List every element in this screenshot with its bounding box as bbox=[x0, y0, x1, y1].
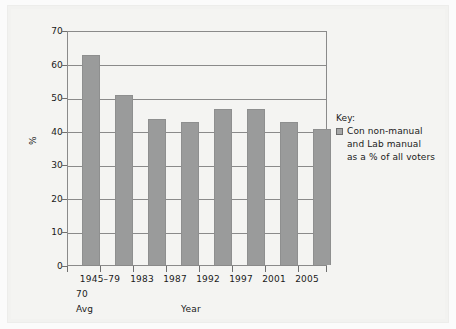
bar-1983 bbox=[148, 119, 166, 265]
plot-area bbox=[67, 31, 327, 266]
x-tick-label-2001: 2001 bbox=[256, 274, 292, 284]
chart-screenshot: % 70 60 50 40 30 20 10 0 bbox=[0, 0, 456, 329]
bar-1992 bbox=[214, 109, 232, 265]
x-tick-label-1992: 1992 bbox=[190, 274, 226, 284]
y-tick-label-10: 10 bbox=[41, 227, 63, 237]
x-tick-mark bbox=[265, 266, 266, 272]
x-axis-title: Year bbox=[181, 304, 201, 314]
x-tick-label-1997: 1997 bbox=[223, 274, 259, 284]
y-tick-label-20: 20 bbox=[41, 194, 63, 204]
bar-2005 bbox=[313, 129, 331, 265]
y-tick-label-30: 30 bbox=[41, 160, 63, 170]
x-tick-label-1945-79-line2: 70 bbox=[76, 289, 88, 299]
y-tick-label-0: 0 bbox=[41, 261, 63, 271]
y-axis-title: % bbox=[28, 136, 38, 145]
legend-swatch-icon bbox=[336, 128, 343, 135]
y-tick-label-50: 50 bbox=[41, 93, 63, 103]
gridline-50 bbox=[68, 99, 326, 100]
legend-entry: Con non-manual bbox=[336, 125, 448, 138]
bar-1945-79-70-avg bbox=[82, 55, 100, 265]
x-tick-mark bbox=[67, 266, 68, 272]
x-tick-mark bbox=[326, 266, 327, 272]
x-tick-mark bbox=[298, 266, 299, 272]
bar-second bbox=[115, 95, 133, 265]
x-tick-label-1983: 1983 bbox=[124, 274, 160, 284]
x-tick-label-1945-79-line3: Avg bbox=[76, 304, 93, 314]
x-tick-mark bbox=[133, 266, 134, 272]
x-tick-mark bbox=[199, 266, 200, 272]
legend-entry-line3: as a % of all voters bbox=[336, 151, 448, 164]
x-tick-label-1987: 1987 bbox=[157, 274, 193, 284]
bar-1987 bbox=[181, 122, 199, 265]
y-tick-label-60: 60 bbox=[41, 60, 63, 70]
bar-chart-figure: % 70 60 50 40 30 20 10 0 bbox=[0, 0, 456, 329]
y-tick-label-40: 40 bbox=[41, 127, 63, 137]
legend-entry-line2: and Lab manual bbox=[336, 138, 448, 151]
x-tick-mark bbox=[166, 266, 167, 272]
x-tick-mark bbox=[232, 266, 233, 272]
bar-1997 bbox=[247, 109, 265, 265]
chart-legend: Key: Con non-manual and Lab manual as a … bbox=[336, 112, 448, 164]
x-tick-mark bbox=[100, 266, 101, 272]
legend-entry-line1: Con non-manual bbox=[347, 126, 423, 136]
x-tick-label-2005: 2005 bbox=[289, 274, 325, 284]
y-tick-label-70: 70 bbox=[41, 26, 63, 36]
x-tick-label-1945-79: 1945–79 bbox=[75, 274, 125, 284]
bar-2001 bbox=[280, 122, 298, 265]
legend-title: Key: bbox=[336, 112, 448, 125]
gridline-60 bbox=[68, 65, 326, 66]
